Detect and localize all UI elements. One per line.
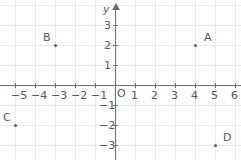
x-axis-tick-label: 3 <box>171 90 178 101</box>
gridline-horizontal <box>0 65 241 66</box>
gridline-horizontal <box>0 125 241 126</box>
gridline-vertical <box>155 0 156 160</box>
y-axis-arrow-icon <box>112 3 120 10</box>
x-axis-tick <box>35 83 36 88</box>
y-axis-tick-label: −1 <box>99 100 111 111</box>
point-label-a: A <box>204 32 212 43</box>
gridline-horizontal <box>0 45 241 46</box>
x-axis-tick-label: −2 <box>71 90 87 101</box>
point-label-b: B <box>43 32 51 43</box>
x-axis-tick-label: 5 <box>211 90 218 101</box>
x-axis-tick-label: −3 <box>51 90 67 101</box>
x-axis-tick-label: 2 <box>151 90 158 101</box>
point-label-d: D <box>223 132 231 143</box>
x-axis-tick <box>215 83 216 88</box>
plotted-point-d <box>214 144 217 147</box>
gridline-horizontal <box>0 5 241 6</box>
grid <box>0 0 241 160</box>
point-label-c: C <box>3 112 11 123</box>
y-axis-tick-label: 1 <box>99 60 111 71</box>
gridline-vertical <box>135 0 136 160</box>
gridline-vertical <box>235 0 236 160</box>
x-axis-tick <box>55 83 56 88</box>
x-axis <box>0 85 241 86</box>
x-axis-tick <box>95 83 96 88</box>
gridline-vertical <box>75 0 76 160</box>
gridline-vertical <box>215 0 216 160</box>
x-axis-tick <box>135 83 136 88</box>
gridline-vertical <box>55 0 56 160</box>
gridline-horizontal <box>0 25 241 26</box>
x-axis-tick <box>195 83 196 88</box>
gridline-vertical <box>95 0 96 160</box>
coordinate-plane: −5−4−3−2−1123456−3−2−1123Oxy ABCD <box>0 0 241 160</box>
gridline-vertical <box>175 0 176 160</box>
y-axis-tick <box>113 65 118 66</box>
x-axis-tick-label: −5 <box>11 90 27 101</box>
plotted-point-c <box>14 124 17 127</box>
y-axis-tick <box>113 25 118 26</box>
gridline-vertical <box>35 0 36 160</box>
x-axis-tick-label: 6 <box>231 90 238 101</box>
gridline-horizontal <box>0 105 241 106</box>
y-axis-tick-label: 2 <box>99 40 111 51</box>
origin-label: O <box>117 88 126 99</box>
plotted-point-b <box>54 44 57 47</box>
x-axis-tick <box>175 83 176 88</box>
x-axis-tick <box>155 83 156 88</box>
x-axis-tick <box>75 83 76 88</box>
x-axis-tick <box>235 83 236 88</box>
plotted-point-a <box>194 44 197 47</box>
x-axis-tick-label: 4 <box>191 90 198 101</box>
x-axis-tick <box>15 83 16 88</box>
y-axis-tick-label: −2 <box>99 120 111 131</box>
y-axis <box>115 10 116 160</box>
gridline-vertical <box>15 0 16 160</box>
gridline-horizontal <box>0 145 241 146</box>
y-axis-tick-label: −3 <box>99 140 111 151</box>
x-axis-tick-label: −4 <box>31 90 47 101</box>
x-axis-tick-label: 1 <box>131 90 138 101</box>
y-axis-name: y <box>103 4 110 15</box>
y-axis-tick-label: 3 <box>99 20 111 31</box>
y-axis-tick <box>113 45 118 46</box>
gridline-vertical <box>195 0 196 160</box>
